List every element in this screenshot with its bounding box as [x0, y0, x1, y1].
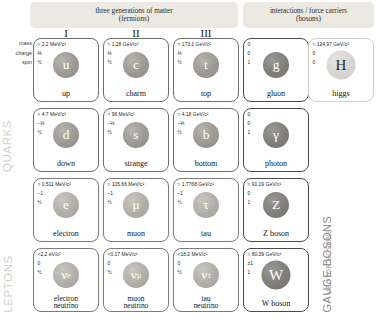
particle-name-line2: neutrino: [34, 302, 98, 310]
particle-card-w-boson[interactable]: ≈ 80.39 GeV/c² ±1 1 W W boson: [243, 248, 309, 312]
property-label-spin: spin: [6, 60, 32, 70]
particle-spin: ½: [108, 271, 138, 281]
particle-stats: ≈ 105.66 MeV/c² −1 ½: [108, 182, 145, 211]
particle-name-line2: neutrino: [174, 302, 238, 310]
particle-stats: ≈ 1.28 GeV/c² ⅔ ½: [108, 42, 139, 71]
particle-name: top: [174, 90, 238, 98]
particle-card-top[interactable]: ≈ 173.1 GeV/c² ⅔ ½ t top: [173, 38, 239, 102]
particle-symbol-subscript: e: [67, 271, 71, 280]
particle-card-z-boson[interactable]: ≈ 91.19 GeV/c² 0 1 Z Z boson: [243, 178, 309, 242]
particle-spin: 1: [248, 61, 251, 71]
particle-symbol: γ: [263, 122, 289, 148]
particle-card-bottom[interactable]: ≈ 4.18 GeV/c² −⅓ ½ b bottom: [173, 108, 239, 172]
particle-spin: ½: [178, 61, 212, 71]
particle-stats: ≈ 91.19 GeV/c² 0 1: [248, 182, 282, 211]
particle-name: photon: [244, 160, 308, 168]
particle-name-line2: neutrino: [104, 302, 168, 310]
particle-spin: ½: [38, 131, 66, 141]
particle-charge: −1: [178, 192, 214, 202]
particle-name: charm: [104, 90, 168, 98]
particle-card-photon[interactable]: 0 0 1 γ photon: [243, 108, 309, 172]
particle-name: tau: [174, 230, 238, 238]
particle-stats: ≈ 4.7 MeV/c² −⅓ ½: [38, 112, 66, 141]
particle-symbol: g: [263, 52, 289, 78]
particle-charge: ⅔: [108, 52, 139, 62]
particle-charge: ⅔: [178, 52, 212, 62]
particle-stats: ≈ 80.39 GeV/c² ±1 1: [248, 252, 282, 281]
header-fermions-line1: three generations of matter: [95, 7, 172, 15]
header-bosons-line2: (bosons): [296, 15, 321, 23]
particle-card-higgs[interactable]: ≈ 124.97 GeV/c² 0 0 H higgs: [308, 38, 374, 102]
particle-name: electron: [34, 230, 98, 238]
particle-card-electron-neutrino[interactable]: <2.2 eV/c² 0 ½ νe electron neutrino: [33, 248, 99, 312]
particle-name: muon: [104, 230, 168, 238]
header-bosons-line1: interactions / force carriers: [270, 7, 347, 15]
particle-mass: <0.17 MeV/c²: [108, 252, 138, 262]
group-label-vector-bosons: VECTOR BOSONS: [325, 229, 332, 294]
particle-charge: ±1: [248, 262, 282, 272]
particle-spin: 0: [313, 61, 349, 71]
particle-stats: ≈ 4.18 GeV/c² −⅓ ½: [178, 112, 209, 141]
particle-spin: ½: [108, 201, 145, 211]
particle-card-electron[interactable]: ≈ 0.511 MeV/c² −1 ½ e electron: [33, 178, 99, 242]
property-labels: mass charge spin: [6, 41, 32, 70]
particle-card-charm[interactable]: ≈ 1.28 GeV/c² ⅔ ½ c charm: [103, 38, 169, 102]
particle-name: electron neutrino: [34, 295, 98, 310]
particle-spin: ½: [178, 201, 214, 211]
particle-spin: ½: [38, 271, 61, 281]
particle-charge: 0: [248, 192, 282, 202]
header-fermions: three generations of matter (fermions): [30, 2, 238, 28]
particle-name: up: [34, 90, 98, 98]
particle-charge: −1: [38, 192, 72, 202]
particle-mass: ≈ 124.97 GeV/c²: [313, 42, 349, 52]
particle-spin: ½: [108, 61, 139, 71]
particle-name: W boson: [244, 300, 308, 308]
particle-stats: <2.2 eV/c² 0 ½: [38, 252, 61, 281]
header-bosons: interactions / force carriers (bosons): [243, 2, 374, 28]
particle-spin: ½: [38, 201, 72, 211]
particle-card-strange[interactable]: ≈ 96 MeV/c² −⅓ ½ s strange: [103, 108, 169, 172]
particle-stats: <0.17 MeV/c² 0 ½: [108, 252, 138, 281]
particle-mass: <2.2 eV/c²: [38, 252, 61, 262]
particle-spin: 1: [248, 131, 251, 141]
particle-name: bottom: [174, 160, 238, 168]
particle-stats: ≈ 173.1 GeV/c² ⅔ ½: [178, 42, 212, 71]
group-label-quarks: QUARKS: [1, 120, 13, 172]
particle-spin: ½: [108, 131, 135, 141]
particle-symbol-subscript: μ: [137, 271, 141, 280]
particle-name: gluon: [244, 90, 308, 98]
particle-stats: ≈ 0.511 MeV/c² −1 ½: [38, 182, 72, 211]
particle-charge: −⅓: [178, 122, 209, 132]
particle-spin: 1: [248, 271, 282, 281]
particle-stats: 0 0 1: [248, 42, 251, 71]
particle-card-muon-neutrino[interactable]: <0.17 MeV/c² 0 ½ νμ muon neutrino: [103, 248, 169, 312]
particle-name: down: [34, 160, 98, 168]
particle-spin: ½: [178, 131, 209, 141]
particle-mass: ≈ 91.19 GeV/c²: [248, 182, 282, 192]
particle-spin: ½: [38, 61, 66, 71]
particle-name: tau neutrino: [174, 295, 238, 310]
particle-mass: ≈ 2.2 MeV/c²: [38, 42, 66, 52]
particle-card-up[interactable]: ≈ 2.2 MeV/c² ⅔ ½ u up: [33, 38, 99, 102]
particle-card-muon[interactable]: ≈ 105.66 MeV/c² −1 ½ μ muon: [103, 178, 169, 242]
particle-symbol-subscript: τ: [207, 271, 210, 280]
particle-name: higgs: [309, 90, 373, 98]
particle-card-tau-neutrino[interactable]: <18.2 MeV/c² 0 ½ ντ tau neutrino: [173, 248, 239, 312]
particle-stats: ≈ 96 MeV/c² −⅓ ½: [108, 112, 135, 141]
particle-charge: 0: [313, 52, 349, 62]
particle-name: strange: [104, 160, 168, 168]
particle-stats: ≈ 2.2 MeV/c² ⅔ ½: [38, 42, 66, 71]
particle-card-tau[interactable]: ≈ 1.7768 GeV/c² −1 ½ τ tau: [173, 178, 239, 242]
particle-stats: ≈ 1.7768 GeV/c² −1 ½: [178, 182, 214, 211]
particle-stats: <18.2 MeV/c² 0 ½: [178, 252, 208, 281]
header-fermions-line2: (fermions): [119, 15, 149, 23]
particle-mass: <18.2 MeV/c²: [178, 252, 208, 262]
particle-card-gluon[interactable]: 0 0 1 g gluon: [243, 38, 309, 102]
particle-name: muon neutrino: [104, 295, 168, 310]
particle-stats: ≈ 124.97 GeV/c² 0 0: [313, 42, 349, 71]
particle-name: Z boson: [244, 230, 308, 238]
particle-card-down[interactable]: ≈ 4.7 MeV/c² −⅓ ½ d down: [33, 108, 99, 172]
particle-stats: 0 0 1: [248, 112, 251, 141]
particle-mass: ≈ 1.28 GeV/c²: [108, 42, 139, 52]
particle-spin: ½: [178, 271, 208, 281]
